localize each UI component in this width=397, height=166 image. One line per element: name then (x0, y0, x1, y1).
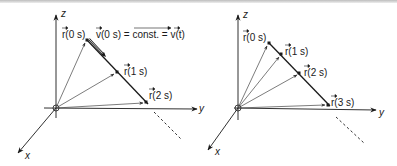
label-r2s: r(2 s) (304, 67, 327, 78)
motion-diagram: z x r(0 s) r(1 s) r(2 s) (0, 0, 397, 166)
right-axes (208, 15, 376, 150)
right-panel: z y x r(0 s) r(1 s) r(2 s) r(3 s) (208, 9, 385, 157)
velocity-label-right: = v(t) (159, 29, 185, 40)
left-panel: z x r(0 s) r(1 s) r(2 s) (18, 8, 205, 161)
z-axis-label: z (60, 8, 66, 19)
velocity-vector (89, 39, 106, 57)
right-position-labels: r(0 s) r(1 s) r(2 s) r(3 s) (243, 32, 354, 108)
label-r0s: r(0 s) (62, 29, 85, 40)
point-r3 (327, 104, 330, 107)
point-r0 (268, 42, 271, 45)
x-axis (208, 108, 238, 150)
label-r1s: r(1 s) (285, 46, 308, 57)
label-r1s: r(1 s) (124, 66, 147, 77)
y-axis (234, 108, 376, 110)
y-axis-label: y (378, 107, 385, 118)
point-r1 (116, 71, 119, 74)
point-r0 (86, 39, 89, 42)
label-r2s: r(2 s) (149, 90, 172, 101)
y-axis (44, 108, 197, 109)
label-r0s: r(0 s) (243, 32, 266, 43)
velocity-label-left: v(0 s) = (96, 29, 132, 40)
x-axis-label: x (214, 146, 221, 157)
x-axis (18, 108, 56, 153)
z-axis-label: z (242, 9, 248, 20)
label-r3s: r(3 s) (331, 97, 354, 108)
y-axis-label-left: y (198, 103, 205, 114)
trajectory-extension-dashed (154, 112, 182, 140)
velocity-label-const: const. (132, 29, 159, 40)
point-r2 (298, 72, 301, 75)
point-r1 (280, 53, 283, 56)
x-axis-label: x (24, 150, 31, 161)
velocity-label: v(0 s) = const. = v(t) (96, 29, 185, 40)
point-r2 (145, 101, 148, 104)
trajectory-extension-dashed (336, 117, 364, 143)
